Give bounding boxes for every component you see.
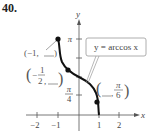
- svg-text:(: (: [96, 80, 101, 98]
- point-pi6: [94, 99, 99, 104]
- x-tick-neg1: −1: [51, 120, 60, 130]
- y-tick-pi: π: [68, 34, 73, 44]
- svg-text:1: 1: [40, 65, 45, 75]
- svg-text:2: 2: [38, 76, 43, 86]
- label-point-pi6: ( , π 6 ): [96, 80, 129, 100]
- y-axis-label: y: [75, 9, 80, 19]
- function-callout: y = arccos x: [86, 38, 146, 83]
- function-label: y = arccos x: [94, 42, 138, 52]
- point-neg-half: [65, 67, 70, 72]
- x-tick-neg2: −2: [30, 120, 39, 130]
- svg-text:(−1,: (−1,: [24, 48, 39, 58]
- svg-text:(: (: [26, 66, 31, 84]
- x-axis-label: x: [140, 110, 145, 120]
- svg-text:,: ,: [44, 76, 46, 86]
- svg-text:6: 6: [116, 90, 121, 100]
- label-point-neg-half: ( − 1 2 , ): [26, 65, 63, 88]
- svg-text:−: −: [32, 70, 37, 80]
- y-tick-pi4-den: 4: [67, 94, 72, 104]
- arccos-graph: x y −2 −1 1 2 π π 4 (−1, ) ( − 1 2 , ) (: [0, 0, 162, 136]
- y-tick-pi4-num: π: [67, 84, 72, 94]
- point-neg1: [55, 36, 60, 41]
- x-axis-arrow-icon: [134, 113, 140, 117]
- svg-text:): ): [58, 70, 63, 88]
- x-tick-2: 2: [117, 120, 121, 130]
- svg-text:π: π: [116, 80, 121, 90]
- svg-text:): ): [124, 82, 129, 100]
- x-tick-1: 1: [97, 120, 101, 130]
- label-point-neg1: (−1, ): [24, 48, 57, 58]
- y-axis-arrow-icon: [77, 19, 81, 25]
- svg-text:): ): [54, 48, 57, 58]
- svg-text:,: ,: [111, 88, 113, 98]
